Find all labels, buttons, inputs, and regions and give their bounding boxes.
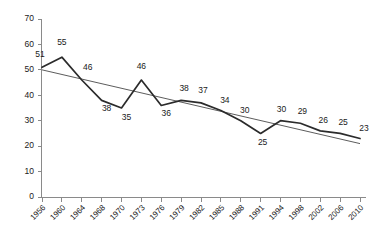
- y-tick-label: 40: [25, 90, 35, 100]
- x-tick-label: 1988: [227, 203, 246, 222]
- x-tick-label: 1960: [48, 203, 67, 222]
- x-tick-label: 1970: [108, 203, 127, 222]
- data-point-label: 46: [137, 61, 147, 71]
- data-point-label: 55: [57, 37, 67, 47]
- data-point-label: 26: [319, 115, 329, 125]
- chart-canvas: 010203040506070 195619601964196819701973…: [0, 0, 382, 234]
- data-point-label: 46: [83, 62, 93, 72]
- y-tick-labels: 010203040506070: [25, 13, 35, 201]
- data-point-label: 35: [122, 112, 132, 122]
- line-chart: 010203040506070 195619601964196819701973…: [0, 0, 382, 234]
- y-tick-label: 30: [25, 115, 35, 125]
- trendline-path: [42, 70, 360, 144]
- data-point-label: 25: [338, 117, 348, 127]
- x-tick-label: 1998: [287, 203, 306, 222]
- data-point-label: 38: [102, 103, 112, 113]
- x-tick-label: 2006: [327, 203, 346, 222]
- y-tick-label: 70: [25, 13, 35, 23]
- data-point-label: 30: [240, 105, 250, 115]
- x-tick-label: 1956: [28, 203, 47, 222]
- data-point-label: 30: [277, 104, 287, 114]
- data-point-label: 34: [220, 95, 230, 105]
- x-tick-label: 2010: [346, 203, 365, 222]
- x-tick-label: 1964: [68, 203, 87, 222]
- y-tick-label: 20: [25, 140, 35, 150]
- data-point-label: 37: [198, 85, 208, 95]
- data-point-label: 29: [298, 106, 308, 116]
- x-tick-label: 1991: [247, 203, 266, 222]
- x-tick-label: 1979: [168, 203, 187, 222]
- x-tick-label: 1994: [267, 203, 286, 222]
- x-tick-label: 1982: [187, 203, 206, 222]
- x-tick-label: 1973: [128, 203, 147, 222]
- y-tick-label: 0: [29, 191, 34, 201]
- y-tick-label: 10: [25, 166, 35, 176]
- data-point-label: 51: [35, 49, 45, 59]
- y-tick-label: 60: [25, 39, 35, 49]
- data-point-label: 25: [258, 137, 268, 147]
- y-tick-label: 50: [25, 64, 35, 74]
- x-tick-label: 1985: [207, 203, 226, 222]
- x-axis-ticks: [42, 198, 360, 202]
- data-point-label: 36: [162, 108, 172, 118]
- x-tick-labels: 1956196019641968197019731976197919821985…: [28, 203, 365, 222]
- data-point-label: 38: [179, 83, 189, 93]
- data-point-label: 23: [359, 123, 369, 133]
- x-tick-label: 1976: [148, 203, 167, 222]
- y-axis-ticks: [38, 19, 42, 197]
- x-tick-label: 1968: [88, 203, 107, 222]
- x-tick-label: 2002: [307, 203, 326, 222]
